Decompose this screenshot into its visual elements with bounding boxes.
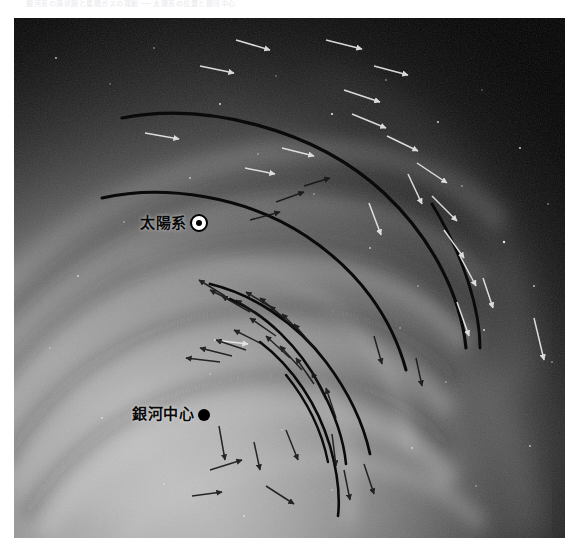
sun-symbol-icon [190,214,208,232]
label-galactic-center: 銀河中心 [132,407,210,422]
page-root: 銀河系の渦状腕と星間ガスの運動 ── 太陽系の位置と銀河中心 [0,0,576,553]
label-solar-system-text: 太陽系 [140,216,187,231]
film-grain [14,18,565,538]
galaxy-figure: 太陽系 銀河中心 [14,18,565,538]
label-solar-system: 太陽系 [140,214,208,232]
galactic-center-dot-icon [198,409,210,421]
caption-remnant: 銀河系の渦状腕と星間ガスの運動 ── 太陽系の位置と銀河中心 [26,0,366,9]
galaxy-image-canvas [14,18,565,538]
label-galactic-center-text: 銀河中心 [132,407,194,422]
